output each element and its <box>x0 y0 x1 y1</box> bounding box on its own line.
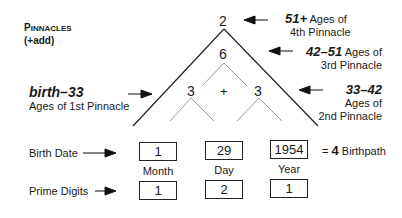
birth-year-box: 1954 <box>270 140 308 159</box>
year-caption: Year <box>264 163 314 175</box>
pinnacle-1-value: 3 <box>187 84 195 98</box>
birth-month-box: 1 <box>139 142 177 161</box>
plus-sign: + <box>220 84 228 99</box>
prime-day-box: 2 <box>205 180 243 199</box>
prime-digits-label: Prime Digits <box>29 185 88 198</box>
pinnacle-4-value: 2 <box>219 14 227 28</box>
day-caption: Day <box>199 164 249 176</box>
birthpath-result: = 4 Birthpath <box>322 144 386 158</box>
annotation-3rd-pinnacle: 42–51 Ages of 3rd Pinnacle <box>306 45 382 72</box>
annotation-1st-pinnacle: birth–33 Ages of 1st Pinnacle <box>29 86 129 113</box>
pinnacle-3-value: 6 <box>219 47 227 61</box>
prime-month-box: 1 <box>139 181 177 200</box>
month-caption: Month <box>133 165 183 177</box>
birth-day-box: 29 <box>205 141 243 160</box>
prime-year-box: 1 <box>270 179 308 198</box>
diagram-title: PINNACLES (+add) <box>24 22 72 47</box>
annotation-2nd-pinnacle: 33–42 Ages of 2nd Pinnacle <box>318 83 382 123</box>
birth-date-label: Birth Date <box>29 147 78 160</box>
pinnacle-2-value: 3 <box>254 84 262 98</box>
annotation-4th-pinnacle: 51+ Ages of 4th Pinnacle <box>285 12 351 39</box>
